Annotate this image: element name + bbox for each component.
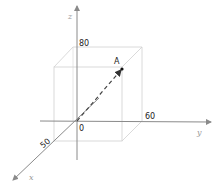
coordinate-diagram: 80 60 50 0 A z y x: [0, 0, 217, 193]
y-axis: [40, 121, 211, 122]
point-a: [120, 67, 123, 70]
vector-oa: [77, 70, 121, 121]
diagram-canvas: 80 60 50 0 A z y x: [0, 0, 217, 193]
y-tick-label: 60: [145, 112, 155, 121]
origin-label: 0: [79, 124, 84, 133]
z-axis-label: z: [67, 12, 73, 21]
x-axis-label: x: [29, 173, 34, 182]
y-axis-label: y: [196, 128, 202, 137]
bounding-box: [54, 47, 142, 141]
point-a-label: A: [114, 57, 120, 66]
axes: [13, 6, 211, 180]
x-tick-label: 50: [39, 137, 53, 150]
z-tick-label: 80: [79, 39, 89, 48]
